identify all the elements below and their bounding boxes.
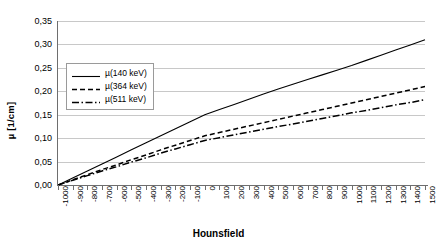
x-tick-label: -700 — [106, 186, 114, 202]
x-tick-label: 0 — [209, 186, 217, 190]
x-tick-label: -800 — [91, 186, 99, 202]
x-tick-label: -500 — [135, 186, 143, 202]
x-tick-label: -900 — [77, 186, 85, 202]
x-tick-label: 1200 — [385, 186, 393, 204]
x-tick-label: 1500 — [429, 186, 437, 204]
legend-key-icon — [71, 81, 101, 92]
x-tick-label: 800 — [326, 186, 334, 199]
y-tick-label: 0,30 — [18, 40, 52, 49]
legend-key-icon — [71, 94, 101, 105]
legend-item: µ(140 keV) — [71, 67, 147, 80]
legend-label: µ(140 keV) — [105, 69, 147, 78]
x-tick-label: 500 — [282, 186, 290, 199]
legend-item: µ(511 keV) — [71, 93, 147, 106]
x-tick-label: 100 — [223, 186, 231, 199]
x-axis-tick-labels: -1000-900-800-700-600-500-400-300-200-10… — [0, 186, 437, 232]
series-line — [58, 40, 425, 185]
legend-item: µ(364 keV) — [71, 80, 147, 93]
x-tick-label: -100 — [194, 186, 202, 202]
legend-key-icon — [71, 68, 101, 79]
y-tick-label: 0,10 — [18, 134, 52, 143]
x-tick-label: 700 — [312, 186, 320, 199]
chart-legend: µ(140 keV)µ(364 keV)µ(511 keV) — [66, 63, 154, 110]
legend-label: µ(511 keV) — [105, 95, 146, 104]
y-tick-label: 0,20 — [18, 87, 52, 96]
x-axis-title: Hounsfield — [0, 228, 437, 239]
x-tick-label: 600 — [297, 186, 305, 199]
x-tick-label: -200 — [179, 186, 187, 202]
hounsfield-attenuation-chart: µ [1/cm] 0,000,050,100,150,200,250,300,3… — [0, 0, 437, 246]
y-tick-label: 0,35 — [18, 17, 52, 26]
y-tick-label: 0,25 — [18, 63, 52, 72]
x-tick-label: 200 — [238, 186, 246, 199]
x-tick-label: 300 — [253, 186, 261, 199]
x-tick-label: 1400 — [414, 186, 422, 204]
x-tick-label: -400 — [150, 186, 158, 202]
series-line — [58, 100, 425, 185]
x-tick-label: 900 — [341, 186, 349, 199]
x-tick-label: -300 — [165, 186, 173, 202]
y-tick-label: 0,05 — [18, 157, 52, 166]
x-tick-label: 400 — [268, 186, 276, 199]
x-tick-label: -600 — [121, 186, 129, 202]
y-tick-label: 0,15 — [18, 110, 52, 119]
x-tick-label: 1000 — [356, 186, 364, 204]
x-tick-label: 1100 — [370, 186, 378, 203]
x-tick-label: -1000 — [62, 186, 70, 206]
legend-label: µ(364 keV) — [105, 82, 147, 91]
x-tick-label: 1300 — [400, 186, 408, 204]
